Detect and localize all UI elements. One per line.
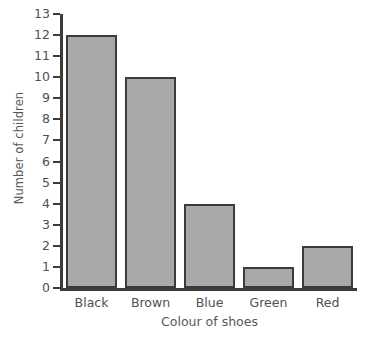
y-axis-tick-label: 3: [26, 219, 50, 231]
x-axis-tick-label: Red: [298, 295, 357, 311]
y-axis-tick-mark: [53, 161, 60, 163]
y-axis-tick-mark: [53, 139, 60, 141]
y-axis-tick-label: 10: [26, 71, 50, 83]
bar-red: [302, 246, 353, 288]
y-axis-tick-mark: [53, 97, 60, 99]
y-axis-tick-label: 2: [26, 240, 50, 252]
y-axis-tick-label: 9: [26, 92, 50, 104]
y-axis-tick-mark: [53, 55, 60, 57]
bar-black: [66, 35, 117, 288]
bar-blue: [184, 204, 235, 288]
y-axis-tick-mark: [53, 182, 60, 184]
x-axis-tick-label: Blue: [180, 295, 239, 311]
x-axis-line: [60, 288, 357, 291]
y-axis-tick-label: 7: [26, 134, 50, 146]
bar-green: [243, 267, 294, 288]
y-axis-tick-mark: [53, 76, 60, 78]
x-axis-tick-label-group: BlackBrownBlueGreenRed: [62, 295, 357, 315]
y-axis-tick-label: 1: [26, 261, 50, 273]
y-axis-tick-label: 13: [26, 8, 50, 20]
y-axis-tick-label: 0: [26, 282, 50, 294]
y-axis-tick-mark: [53, 287, 60, 289]
y-axis-tick-label: 5: [26, 177, 50, 189]
y-axis-tick-mark: [53, 13, 60, 15]
x-axis-title: Colour of shoes: [62, 314, 357, 330]
x-axis-tick-label: Black: [62, 295, 121, 311]
y-axis-tick-label-group: 012345678910111213: [26, 14, 50, 288]
plot-area: [62, 14, 357, 288]
y-axis-tick-mark: [53, 245, 60, 247]
y-axis-tick-label: 4: [26, 198, 50, 210]
bar-brown: [125, 77, 176, 288]
x-axis-tick-label: Green: [239, 295, 298, 311]
y-axis-tick-label: 12: [26, 29, 50, 41]
y-axis-tick-label: 6: [26, 156, 50, 168]
y-axis-tick-mark: [53, 224, 60, 226]
y-axis-tick-mark: [53, 118, 60, 120]
x-axis-tick-label: Brown: [121, 295, 180, 311]
y-axis-tick-label: 11: [26, 50, 50, 62]
y-axis-tick-label: 8: [26, 113, 50, 125]
y-axis-tick-mark: [53, 266, 60, 268]
y-axis-tick-mark: [53, 203, 60, 205]
y-axis-tick-mark: [53, 34, 60, 36]
bar-chart: Number of children 012345678910111213 Bl…: [0, 0, 367, 347]
